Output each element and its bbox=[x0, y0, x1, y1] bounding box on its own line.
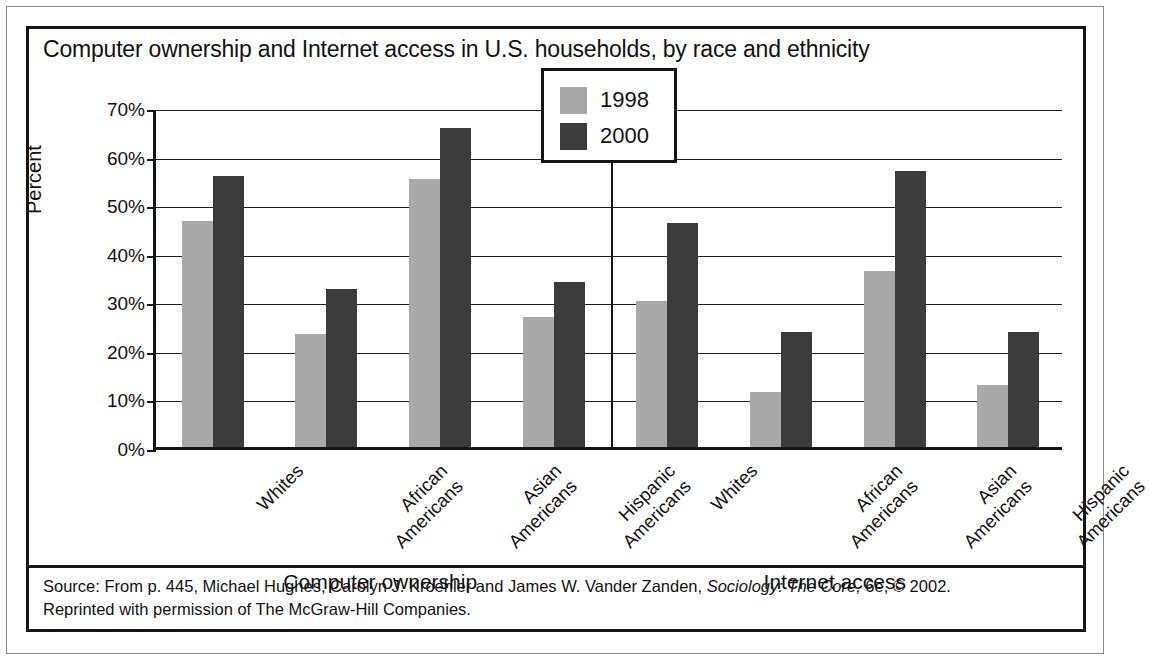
y-axis-tick-mark bbox=[147, 450, 156, 452]
page-title: Computer ownership and Internet access i… bbox=[43, 36, 1083, 63]
figure-frame: Computer ownership and Internet access i… bbox=[26, 26, 1086, 632]
legend-item-1998: 1998 bbox=[560, 82, 674, 118]
bar-2000-hispanic-americans bbox=[1008, 332, 1039, 447]
source-divider bbox=[29, 565, 1083, 568]
bar-1998-whites bbox=[182, 221, 213, 447]
x-axis-category-label: AsianAmericans bbox=[943, 460, 1036, 553]
source-note: Source: From p. 445, Michael Hughes, Car… bbox=[43, 575, 1073, 621]
x-axis-category-label: AsianAmericans bbox=[489, 460, 582, 553]
chart-legend: 1998 2000 bbox=[541, 68, 677, 163]
y-axis-tick-labels: 0%10%20%30%40%50%60%70% bbox=[67, 110, 145, 450]
panel-label: Internet access bbox=[764, 570, 906, 594]
x-axis-category-label: Whites bbox=[252, 460, 307, 515]
legend-label-2000: 2000 bbox=[600, 123, 649, 149]
bar-1998-african-americans bbox=[295, 334, 326, 447]
legend-swatch-2000 bbox=[560, 123, 587, 150]
y-axis-tick-label: 10% bbox=[107, 390, 145, 412]
legend-item-2000: 2000 bbox=[560, 118, 674, 154]
y-axis-tick-label: 40% bbox=[107, 245, 145, 267]
bar-1998-hispanic-americans bbox=[523, 317, 554, 447]
bar-1998-african-americans bbox=[750, 392, 781, 447]
bar-1998-asian-americans bbox=[864, 271, 895, 447]
figure-outer-border: Computer ownership and Internet access i… bbox=[6, 6, 1104, 654]
panel-label: Computer ownership bbox=[283, 570, 477, 594]
y-axis-tick-label: 0% bbox=[118, 439, 145, 461]
x-axis-category-label: HispanicAmericans bbox=[1057, 460, 1149, 553]
y-axis-tick-label: 50% bbox=[107, 196, 145, 218]
gridline bbox=[156, 353, 1062, 354]
bar-1998-hispanic-americans bbox=[977, 385, 1008, 447]
source-text-line2: Reprinted with permission of The McGraw-… bbox=[43, 600, 471, 618]
gridline bbox=[156, 207, 1062, 208]
x-axis-category-label: AfricanAmericans bbox=[830, 460, 923, 553]
y-axis-tick-label: 20% bbox=[107, 342, 145, 364]
legend-swatch-1998 bbox=[560, 87, 587, 114]
y-axis-tick-label: 60% bbox=[107, 148, 145, 170]
bar-1998-whites bbox=[636, 301, 667, 447]
bar-2000-african-americans bbox=[326, 289, 357, 447]
bar-2000-african-americans bbox=[781, 332, 812, 447]
legend-label-1998: 1998 bbox=[600, 87, 649, 113]
x-axis-category-label: AfricanAmericans bbox=[375, 460, 468, 553]
x-axis-category-label: HispanicAmericans bbox=[602, 460, 695, 553]
bar-2000-whites bbox=[213, 176, 244, 447]
gridline bbox=[156, 256, 1062, 257]
gridline bbox=[156, 401, 1062, 402]
bar-2000-asian-americans bbox=[440, 128, 471, 447]
gridline bbox=[156, 304, 1062, 305]
y-axis-tick-label: 70% bbox=[107, 99, 145, 121]
y-axis-title: Percent bbox=[23, 145, 46, 214]
bar-2000-asian-americans bbox=[895, 171, 926, 447]
bar-1998-asian-americans bbox=[409, 179, 440, 447]
bar-2000-hispanic-americans bbox=[554, 282, 585, 447]
bar-2000-whites bbox=[667, 223, 698, 447]
y-axis-tick-label: 30% bbox=[107, 293, 145, 315]
x-axis-category-label: Whites bbox=[707, 460, 762, 515]
